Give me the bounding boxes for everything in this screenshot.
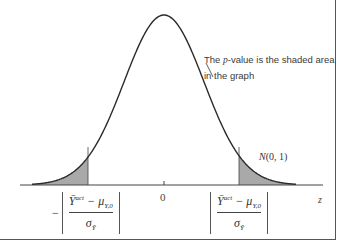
- right-critical-value-label: Ȳact − μY,0 σȲ: [210, 191, 268, 235]
- abs-bar-right: [267, 192, 268, 234]
- z-axis-label: z: [318, 194, 322, 205]
- dist-N: N: [259, 151, 266, 162]
- denominator: σȲ: [86, 213, 96, 232]
- normal-density-curve: [32, 15, 296, 184]
- minus-sign: −: [52, 206, 59, 221]
- abs-bar-right: [119, 192, 120, 234]
- mu-subscript: Y,0: [104, 202, 113, 210]
- p-value-figure: The p-value is the shaded area in the gr…: [0, 0, 345, 248]
- act-superscript: act: [224, 194, 233, 202]
- denominator: σȲ: [234, 213, 244, 232]
- act-superscript: act: [75, 194, 84, 202]
- ybar: Ȳ: [217, 194, 224, 208]
- numerator: Ȳact − μY,0: [217, 194, 261, 213]
- sigma-subscript: Ȳ: [92, 224, 96, 232]
- fraction: Ȳact − μY,0 σȲ: [211, 194, 267, 233]
- zero-tick-label: 0: [160, 191, 166, 203]
- annotation-text: The: [204, 54, 223, 65]
- dist-params: (0, 1): [266, 151, 288, 162]
- mu-term: − μ: [232, 194, 252, 208]
- numerator: Ȳact − μY,0: [69, 194, 113, 213]
- left-critical-value-label: − Ȳact − μY,0 σȲ: [52, 191, 120, 235]
- annotation-text-line2: in the graph: [204, 70, 254, 81]
- sigma-subscript: Ȳ: [240, 224, 244, 232]
- mu-term: − μ: [84, 194, 104, 208]
- left-tail-shaded-area: [32, 157, 88, 185]
- p-value-annotation: The p-value is the shaded area in the gr…: [204, 52, 334, 83]
- distribution-label: N(0, 1): [259, 151, 287, 162]
- mu-subscript: Y,0: [252, 202, 261, 210]
- annotation-text: -value is the shaded area: [228, 54, 335, 65]
- fraction: Ȳact − μY,0 σȲ: [63, 194, 119, 233]
